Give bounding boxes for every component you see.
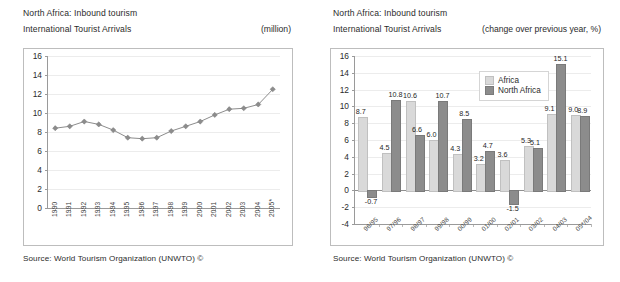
bar-data-label: 8.9 [577,106,587,115]
x-tick-label: 2000 [196,202,203,217]
bar-north-africa [485,151,495,192]
gridline [355,207,591,208]
left-chart-source: Source: World Tourism Organization (UNWT… [23,254,203,263]
bar-chart-plot-area: -4-20246810121416 8.7-0.74.510.810.66.66… [330,48,604,246]
left-chart-unit: (million) [261,24,291,34]
line-chart-y-axis: 0246810121416 [26,49,42,245]
bar-data-label: 4.7 [483,141,493,150]
legend-item-north-africa: North Africa [485,86,541,95]
figure-sheet: North Africa: Inbound tourism Internatio… [0,0,620,282]
x-tick-label: 1995 [123,202,130,217]
x-tick-label: 1994 [109,202,116,217]
x-tick-label: 1997 [152,202,159,217]
data-point [241,106,246,111]
y-tick-label: 16 [340,51,349,61]
right-chart-header: North Africa: Inbound tourism Internatio… [333,8,601,35]
left-chart-panel: North Africa: Inbound tourism Internatio… [0,0,310,282]
y-tick-label: 10 [33,108,42,118]
right-chart-title-line2: International Tourist Arrivals [333,24,441,35]
bar-data-label: 3.2 [474,154,484,163]
x-tick-label: 2002 [225,202,232,217]
bar-data-label: 6.6 [412,125,422,134]
y-tick-label: 2 [37,184,42,194]
y-tick-label: -4 [342,219,349,229]
legend-label: North Africa [498,86,541,95]
y-tick-label: 14 [33,70,42,80]
bar-data-label: 10.7 [436,91,450,100]
y-tick-label: 4 [37,165,42,175]
y-tick-label: -2 [342,202,349,212]
x-tick-label: 2004 [254,202,261,217]
legend-item-africa: Africa [485,76,541,85]
x-tick-label: 2003 [239,202,246,217]
bar-north-africa [415,135,425,192]
bar-data-label: 4.5 [379,143,389,152]
bar-north-africa [556,64,566,193]
bar-north-africa [391,100,401,193]
y-tick-label: 2 [344,169,349,179]
y-tick-label: 14 [340,68,349,78]
bar-data-label: 10.6 [403,91,417,100]
data-point [111,128,116,133]
bar-chart-y-axis: -4-20246810121416 [333,49,349,245]
bar-data-label: 8.5 [459,109,469,118]
data-point [67,124,72,129]
data-point [169,128,174,133]
bar-chart-legend: AfricaNorth Africa [479,71,549,101]
line-series [48,56,280,208]
x-tick-mark [591,224,592,227]
y-tick-label: 10 [340,101,349,111]
line-chart-series-area [48,56,280,208]
legend-swatch-icon [485,76,494,85]
left-chart-header: North Africa: Inbound tourism Internatio… [23,8,291,35]
bar-data-label: 3.6 [497,150,507,159]
bar-data-label: 8.7 [356,107,366,116]
right-chart-title-line1: North Africa: Inbound tourism [333,8,601,19]
x-tick-label: 2005* [268,199,275,217]
x-tick-label: 2001 [210,202,217,217]
bar-data-label: 5.1 [530,138,540,147]
bar-data-label: 4.3 [450,144,460,153]
line-chart-x-axis: 1990199119921993199419951996199719981999… [48,210,280,250]
line-chart-plot-area: 0246810121416 19901991199219931994199519… [23,48,293,246]
right-chart-unit: (change over previous year, %) [482,24,601,34]
x-tick-label: 1992 [80,202,87,217]
data-point [140,136,145,141]
data-point [82,119,87,124]
bar-data-label: 15.1 [554,54,568,63]
y-tick-label: 12 [33,89,42,99]
data-point [227,107,232,112]
y-tick-label: 12 [340,85,349,95]
y-tick-label: 0 [37,203,42,213]
bar-chart-series-area: 8.7-0.74.510.810.66.66.010.74.38.53.24.7… [355,56,591,224]
y-tick-label: 4 [344,152,349,162]
y-tick-label: 16 [33,51,42,61]
bar-data-label: 9.1 [545,104,555,113]
data-point [198,119,203,124]
y-tick-label: 8 [37,127,42,137]
y-tick-label: 0 [344,185,349,195]
legend-label: Africa [498,76,519,85]
bar-north-africa [509,190,519,205]
data-point [154,135,159,140]
y-tick-label: 8 [344,118,349,128]
bar-north-africa [533,148,543,193]
x-tick-label: 1999 [181,202,188,217]
legend-swatch-icon [485,86,494,95]
bar-data-label: 10.8 [388,90,402,99]
bar-data-label: 6.0 [427,130,437,139]
bar-data-label: -1.5 [506,204,518,213]
data-point [96,122,101,127]
bar-north-africa [580,116,590,193]
left-chart-title-line2: International Tourist Arrivals [23,24,131,35]
x-tick-label: 1993 [94,202,101,217]
right-chart-panel: North Africa: Inbound tourism Internatio… [310,0,620,282]
data-point [183,124,188,129]
data-point [125,135,130,140]
x-tick-label: 1996 [138,202,145,217]
data-point [53,126,58,131]
bar-north-africa [438,101,448,193]
y-tick-label: 6 [344,135,349,145]
data-point [212,112,217,117]
bar-africa [500,160,510,192]
